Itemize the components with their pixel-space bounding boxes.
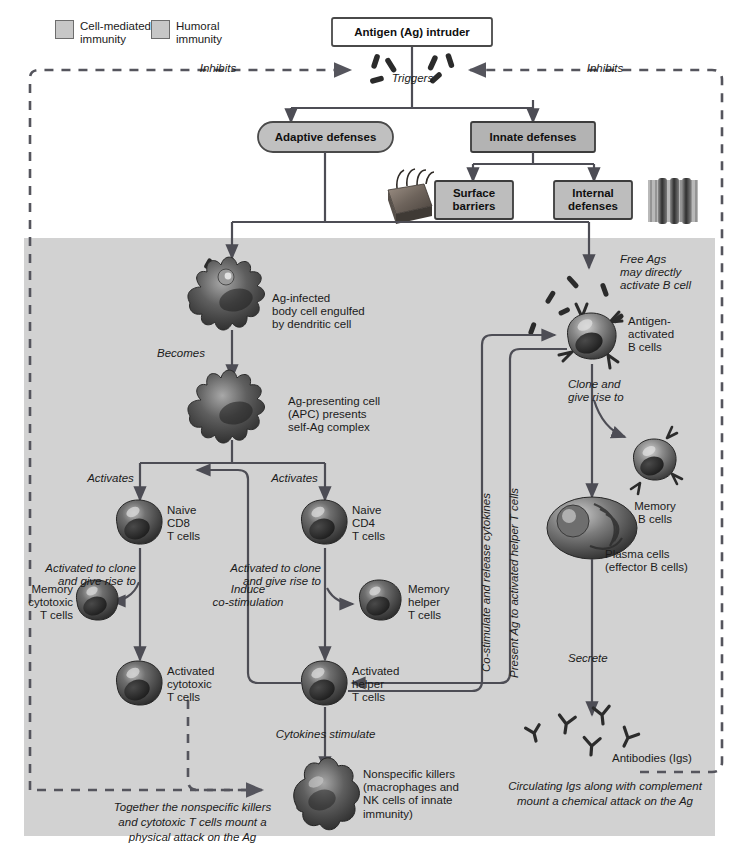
left-caption: Together the nonspecific killers and cyt… xyxy=(60,800,325,845)
antigen-activated-b-label: Antigen- activated B cells xyxy=(628,315,674,355)
plasma-cells-label: Plasma cells (effector B cells) xyxy=(605,548,688,574)
adaptive-defenses-box-label: Adaptive defenses xyxy=(258,122,393,152)
antigen-box-label: Antigen (Ag) intruder xyxy=(332,18,492,46)
secrete-label: Secrete xyxy=(568,652,638,665)
naive-cd4-cell-icon xyxy=(301,500,347,544)
becomes-label: Becomes xyxy=(150,347,212,360)
cytokines-stimulate-label: Cytokines stimulate xyxy=(253,728,398,741)
surface-barriers-box-label: Surface barriers xyxy=(435,181,513,219)
legend-swatch-cell-mediated xyxy=(55,20,74,39)
innate-defenses-box-label: Innate defenses xyxy=(471,122,595,152)
activated-cytotoxic-cell-icon xyxy=(116,661,162,705)
legend-label-cell-mediated-2: immunity xyxy=(80,33,126,46)
cell-membrane-icon xyxy=(648,178,698,224)
activated-cytotoxic-label: Activated cytotoxic T cells xyxy=(167,665,214,705)
memory-cytotoxic-label: Memory cytotoxic T cells xyxy=(8,583,73,623)
memory-b-label: Memory B cells xyxy=(615,500,695,526)
activates-right-label: Activates xyxy=(262,472,327,485)
activated-helper-cell-icon xyxy=(301,661,347,705)
legend-swatch-humoral xyxy=(151,20,170,39)
apc-label: Ag-presenting cell (APC) presents self-A… xyxy=(288,395,380,435)
triggers-label: Triggers xyxy=(385,72,440,85)
inhibits-left-label: Inhibits xyxy=(188,62,248,75)
activates-left-label: Activates xyxy=(78,472,143,485)
memory-helper-cell-icon xyxy=(359,580,401,620)
legend-label-humoral-2: immunity xyxy=(176,33,222,46)
present-ag-label: Present Ag to activated helper T cells xyxy=(508,488,520,678)
naive-cd8-cell-icon xyxy=(116,500,162,544)
diagram-canvas: Cell-mediated immunity Humoral immunity … xyxy=(0,0,747,862)
legend-label-cell-mediated: Cell-mediated xyxy=(80,20,151,33)
induce-costimulation-label: Induce co-stimulation xyxy=(198,583,298,609)
antibodies-label: Antibodies (Igs) xyxy=(612,752,692,765)
costimulate-release-cytokines-label: Co-stimulate and release cytokines xyxy=(480,493,492,672)
activated-helper-label: Activated helper T cells xyxy=(352,665,399,705)
internal-defenses-box-label: Internal defenses xyxy=(554,181,632,219)
nonspecific-killers-label: Nonspecific killers (macrophages and NK … xyxy=(363,768,459,821)
clone-and-give-rise-label: Clone and give rise to xyxy=(568,378,668,404)
memory-helper-label: Memory helper T cells xyxy=(408,583,450,623)
skin-block-icon xyxy=(388,169,434,224)
right-caption: Circulating Igs along with complement mo… xyxy=(470,779,740,809)
free-ags-label: Free Ags may directly activate B cell xyxy=(620,253,691,293)
ag-infected-label: Ag-infected body cell engulfed by dendri… xyxy=(272,292,365,332)
inhibits-right-label: Inhibits xyxy=(575,62,635,75)
legend-label-humoral: Humoral xyxy=(176,20,219,33)
naive-cd4-label: Naive CD4 T cells xyxy=(352,504,385,544)
naive-cd8-label: Naive CD8 T cells xyxy=(167,504,200,544)
